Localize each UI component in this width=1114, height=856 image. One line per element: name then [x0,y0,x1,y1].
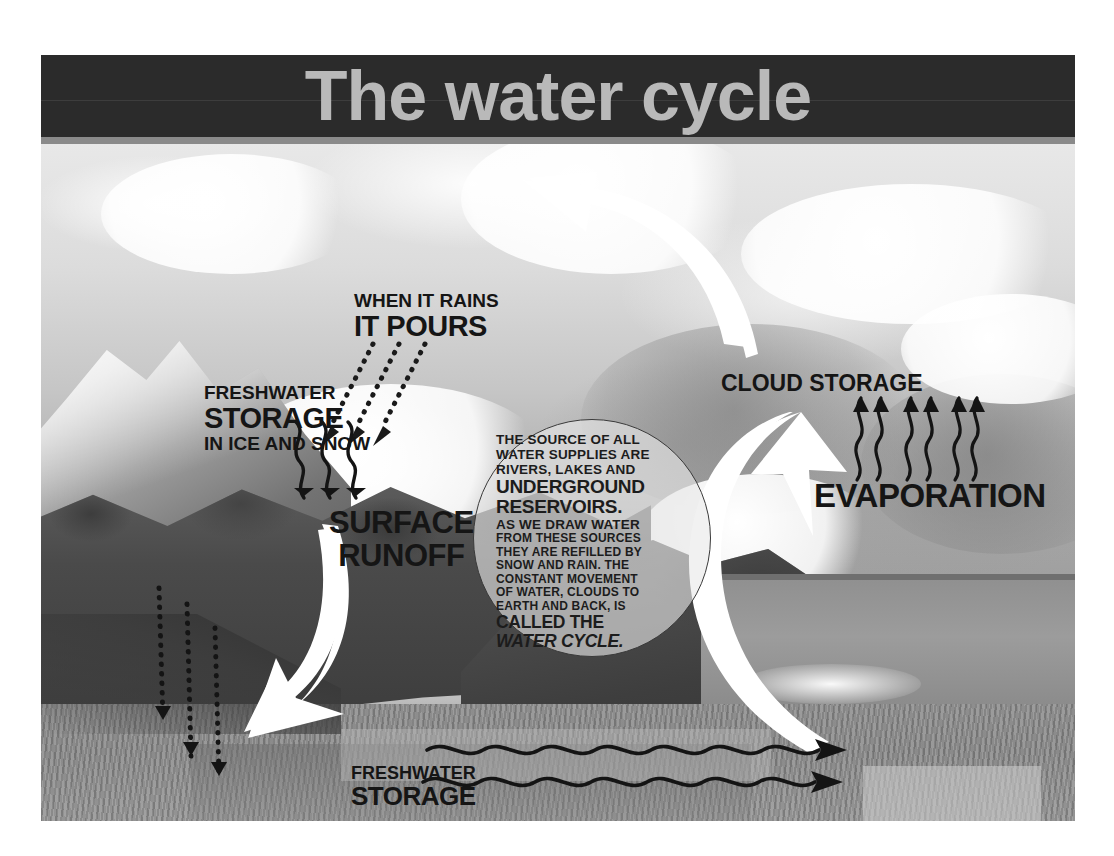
core-line: OF WATER, CLOUDS TO [496,586,688,600]
freshwater-storage-line1: FRESHWATER [351,763,476,783]
surface-runoff-line2: RUNOFF [329,539,474,572]
core-line: RESERVOIRS. [496,497,688,517]
freshwater-storage-line2: STORAGE [351,783,476,810]
label-freshwater-storage-ice-snow: FRESHWATER STORAGE IN ICE AND SNOW [204,382,370,454]
page-title: The water cycle [41,55,1075,139]
core-line: AS WE DRAW WATER [496,517,688,532]
freshwater-storage-flow-arrows [423,736,863,802]
label-evaporation: EVAPORATION [814,479,1046,513]
evaporation-line1: EVAPORATION [814,479,1046,513]
freshwater-ice-line2: STORAGE [204,403,370,433]
scene-photograph: THE SOURCE OF ALL WATER SUPPLIES ARE RIV… [41,144,1075,821]
cloud-puff [101,154,361,274]
label-cloud-storage: CLOUD STORAGE [721,370,922,396]
core-line: EARTH AND BACK, IS [496,600,688,614]
label-water-storage-in-oceans: WATER STORAGE IN OCEANS [879,820,1036,821]
core-line: SNOW AND RAIN. THE [496,559,688,573]
surface-runoff-line1: SURFACE [329,506,474,539]
ground-absorption-dotted-arrows [149,584,239,789]
core-line: THE SOURCE OF ALL [496,432,688,447]
core-statement-text: THE SOURCE OF ALL WATER SUPPLIES ARE RIV… [496,432,688,651]
core-line: THEY ARE REFILLED BY [496,546,688,560]
label-when-it-rains-it-pours: WHEN IT RAINS IT POURS [354,290,499,341]
ocean-storage-line1: WATER STORAGE [879,820,1036,821]
label-surface-runoff: SURFACE RUNOFF [329,506,474,572]
core-line: CONSTANT MOVEMENT [496,573,688,587]
core-line: FROM THESE SOURCES [496,532,688,546]
label-freshwater-storage: FRESHWATER STORAGE [351,763,476,810]
freshwater-ice-line3: IN ICE AND SNOW [204,433,370,454]
core-line-emphasis: WATER CYCLE. [496,632,688,651]
cloud-storage-line1: CLOUD STORAGE [721,370,922,396]
rain-label-line2: IT POURS [354,311,499,341]
core-line: UNDERGROUND [496,477,688,497]
rain-label-line1: WHEN IT RAINS [354,290,499,311]
ocean-storage-panel [863,766,1041,821]
water-cycle-poster: The water cycle [41,55,1075,821]
core-line: RIVERS, LAKES AND [496,462,688,477]
core-line: CALLED THE [496,613,688,632]
core-line: WATER SUPPLIES ARE [496,447,688,462]
freshwater-ice-line1: FRESHWATER [204,382,370,403]
